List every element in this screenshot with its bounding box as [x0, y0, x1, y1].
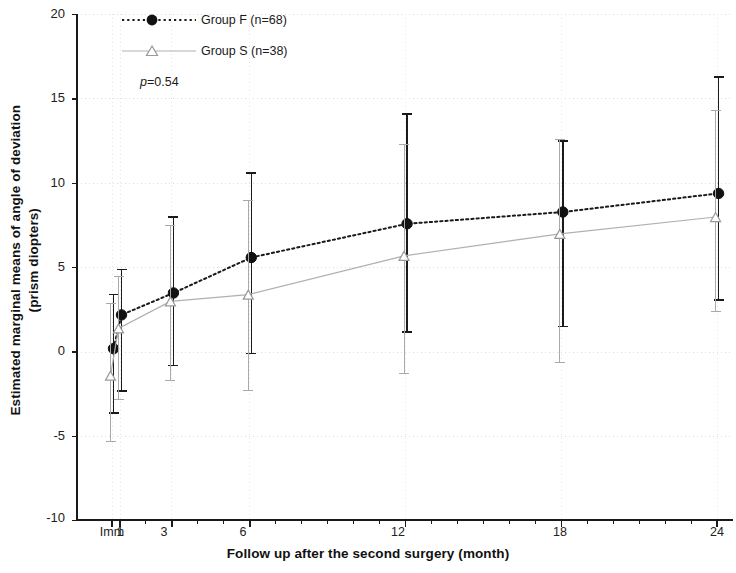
series-group-s — [106, 111, 721, 442]
data-point-marker-filled-circle — [713, 188, 723, 198]
data-point-marker-filled-circle — [116, 310, 126, 320]
series-group-f — [108, 77, 723, 413]
legend-marker-filled-circle — [147, 15, 158, 26]
data-point-marker-filled-circle — [108, 343, 118, 353]
data-point-marker-filled-circle — [558, 207, 568, 217]
legend — [122, 15, 196, 56]
chart-figure: Estimated marginal means of angle of dev… — [0, 0, 736, 573]
data-point-marker-filled-circle — [168, 288, 178, 298]
data-point-marker-filled-circle — [402, 219, 412, 229]
series-line — [114, 193, 719, 348]
data-point-marker-filled-circle — [246, 252, 256, 262]
plot-area — [0, 0, 736, 573]
